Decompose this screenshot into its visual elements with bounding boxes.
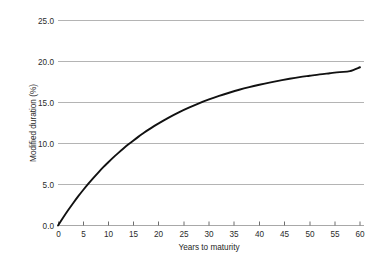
y-tick-label-0: 0.0 [43,222,55,231]
x-tick-label-55: 55 [330,230,340,239]
chart-background [0,0,381,264]
x-tick-label-0: 0 [56,230,61,239]
line-chart: 25.0 20.0 15.0 10.0 5.0 0.0 0 5 10 15 20… [0,0,381,264]
y-tick-label-5: 5.0 [43,181,55,190]
y-tick-label-10: 10.0 [38,140,54,149]
x-tick-label-60: 60 [355,230,365,239]
x-tick-label-20: 20 [154,230,164,239]
x-axis-title: Years to maturity [178,243,240,252]
chart-figure: 25.0 20.0 15.0 10.0 5.0 0.0 0 5 10 15 20… [0,0,381,264]
x-tick-label-5: 5 [81,230,86,239]
x-tick-label-15: 15 [129,230,139,239]
x-tick-label-45: 45 [280,230,290,239]
y-tick-label-20: 20.0 [38,58,54,67]
y-axis-title: Modified duration (%) [29,84,38,162]
x-tick-label-25: 25 [179,230,189,239]
x-tick-label-35: 35 [229,230,239,239]
x-tick-label-30: 30 [204,230,214,239]
x-tick-label-10: 10 [104,230,114,239]
x-tick-label-50: 50 [305,230,315,239]
y-tick-label-15: 15.0 [38,99,54,108]
y-tick-label-25: 25.0 [38,17,54,26]
x-tick-label-40: 40 [255,230,265,239]
